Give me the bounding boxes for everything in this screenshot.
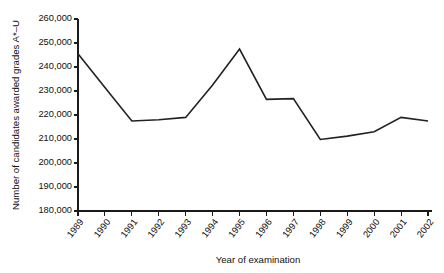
x-tick-label: 1991 — [119, 217, 140, 239]
x-tick-label: 1995 — [226, 217, 247, 239]
x-tick-label: 1994 — [200, 217, 221, 239]
x-axis-title: Year of examination — [216, 254, 300, 265]
y-tick-label: 210,000 — [38, 133, 72, 143]
x-tick-label: 1997 — [280, 217, 301, 239]
line-chart: 180,000190,000200,000210,000220,000230,0… — [0, 0, 444, 273]
x-tick-label: 2000 — [361, 217, 382, 239]
y-axis-tick-marks — [74, 19, 78, 211]
y-tick-label: 200,000 — [38, 157, 72, 167]
y-axis-tick-labels: 180,000190,000200,000210,000220,000230,0… — [38, 13, 72, 215]
y-tick-label: 190,000 — [38, 181, 72, 191]
x-tick-label: 1999 — [334, 217, 355, 239]
x-tick-label: 1993 — [173, 217, 194, 239]
y-tick-label: 230,000 — [38, 85, 72, 95]
x-axis-tick-marks — [78, 211, 428, 216]
data-series-line — [78, 49, 428, 139]
y-tick-label: 260,000 — [38, 13, 72, 23]
y-tick-label: 240,000 — [38, 61, 72, 71]
x-tick-label: 2001 — [388, 217, 409, 239]
x-tick-label: 2002 — [415, 217, 436, 239]
x-tick-label: 1998 — [307, 217, 328, 239]
y-tick-label: 250,000 — [38, 37, 72, 47]
x-tick-label: 1989 — [65, 217, 86, 239]
y-axis-title: Number of candidates awarded grades A*–U — [10, 20, 21, 210]
x-tick-label: 1992 — [146, 217, 167, 239]
chart-figure: 180,000190,000200,000210,000220,000230,0… — [0, 0, 444, 273]
x-tick-label: 1996 — [253, 217, 274, 239]
x-axis-tick-labels: 1989199019911992199319941995199619971998… — [65, 217, 436, 239]
x-tick-label: 1990 — [92, 217, 113, 239]
y-tick-label: 180,000 — [38, 205, 72, 215]
y-tick-label: 220,000 — [38, 109, 72, 119]
